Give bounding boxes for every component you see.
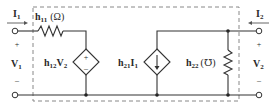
h12-minus: – [83, 64, 89, 73]
h11-to-source-wire [63, 31, 86, 49]
i2-arrowhead [248, 21, 252, 25]
output-top-wire [157, 31, 256, 49]
h21-label: h21I1 [118, 57, 138, 70]
v1-label: V1 [11, 58, 22, 71]
v1-minus: – [14, 76, 20, 85]
i2-label: I2 [256, 8, 264, 21]
i1-label: I1 [13, 8, 21, 21]
i1-arrowhead [24, 21, 28, 25]
v2-plus: + [257, 40, 262, 49]
h11-resistor [38, 26, 63, 36]
h12-plus: + [84, 53, 89, 62]
h22-label: h22(℧) [186, 57, 216, 70]
node-dot [84, 93, 88, 97]
v1-plus: + [15, 40, 20, 49]
arrowhead-icon [155, 66, 160, 70]
h22-resistor [224, 50, 232, 75]
h12-label: h12V2 [44, 57, 68, 70]
v2-label: V2 [253, 58, 264, 71]
h11-label: h11(Ω) [35, 11, 64, 24]
input-terminal-top [12, 28, 18, 34]
h-parameter-circuit: + – I1 I2 + V1 – + V2 – h11(Ω) h12V2 h21… [0, 0, 276, 107]
input-terminal-bottom [12, 92, 18, 98]
v2-minus: – [256, 76, 262, 85]
output-terminal-bottom [256, 92, 262, 98]
output-terminal-top [256, 28, 262, 34]
